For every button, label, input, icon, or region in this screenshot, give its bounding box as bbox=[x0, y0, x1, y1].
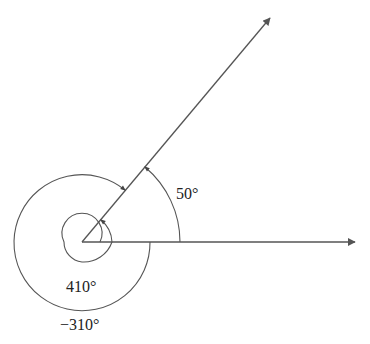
label-50-degrees: 50° bbox=[176, 185, 198, 202]
arc-410-degrees bbox=[62, 213, 112, 262]
terminal-side-ray bbox=[82, 18, 270, 242]
angle-diagram: 50° 410° −310° bbox=[0, 0, 370, 344]
label-410-degrees: 410° bbox=[66, 278, 96, 295]
label-negative-310-degrees: −310° bbox=[60, 316, 99, 333]
arc-50-degrees bbox=[145, 167, 180, 242]
